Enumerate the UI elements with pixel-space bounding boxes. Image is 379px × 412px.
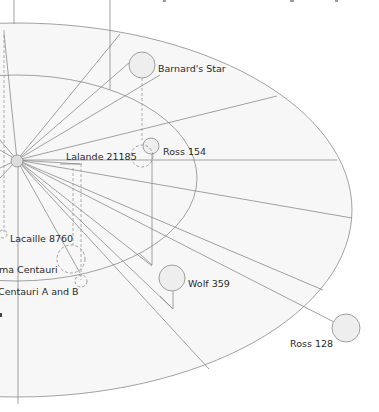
- star-circle: [129, 52, 155, 78]
- edge-mark: [0, 313, 2, 317]
- star-lacaille-8760[interactable]: Lacaille 8760: [0, 230, 73, 244]
- star-label: Wolf 359: [188, 278, 230, 289]
- star-label: Ross 154: [163, 146, 206, 157]
- star-ross-128[interactable]: Ross 128: [290, 314, 360, 349]
- top-edge-text-fragments: [163, 0, 338, 2]
- star-label: ma Centauri: [0, 264, 58, 275]
- star-circle: [159, 265, 185, 291]
- nearby-stars-diagram: Barnard's Star Ross 154 Lalande 21185 La…: [0, 0, 379, 412]
- star-label: Centauri A and B: [0, 286, 79, 297]
- star-circle: [332, 314, 360, 342]
- star-label: Lacaille 8760: [10, 233, 73, 244]
- star-label: Ross 128: [290, 338, 333, 349]
- star-label: Barnard's Star: [158, 63, 226, 74]
- sun-marker: [11, 155, 23, 167]
- star-label: Lalande 21185: [66, 151, 137, 162]
- star-circle: [143, 138, 159, 154]
